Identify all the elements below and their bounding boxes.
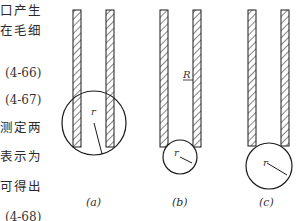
panel-a: r (a) [62,10,126,209]
caption-c: (c) [259,196,274,209]
radius-line-a [94,123,102,154]
caption-a: (a) [86,196,101,209]
tube-wall-right-a [106,10,114,147]
panel-c: r (c) [246,10,292,209]
tube-wall-right-b [193,10,201,147]
radius-label-a: r [91,106,97,117]
panel-b: R r (b) [160,10,201,209]
capillary-bubble-figure: r (a) R r (b) r (c) [0,0,306,221]
tube-radius-label-b: R [182,69,191,80]
tube-wall-right-c [281,10,289,146]
tube-wall-left-b [160,10,168,147]
tube-wall-left-c [248,10,256,146]
tube-wall-left-a [73,10,81,147]
caption-b: (b) [172,196,188,209]
bubble-c [246,143,292,189]
